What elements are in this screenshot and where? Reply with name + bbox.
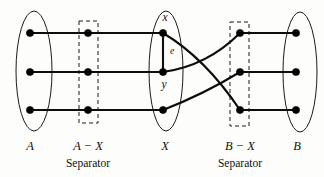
node-A-X-3: [84, 106, 91, 113]
node-B-1: [292, 29, 299, 36]
node-B-X-3: [236, 106, 243, 113]
group-label-A-X: A − X: [73, 140, 103, 153]
group-label-X: X: [161, 140, 169, 153]
node-A-1: [26, 29, 33, 36]
node-A-3: [26, 106, 33, 113]
node-A-2: [26, 68, 33, 75]
node-label-y: y: [161, 79, 166, 91]
node-B-3: [292, 106, 299, 113]
node-A-X-2: [84, 68, 91, 75]
separator-sublabel-B-X: Separator: [218, 158, 262, 170]
separator-sublabel-A-X: Separator: [66, 158, 110, 170]
group-label-A: A: [26, 140, 34, 153]
node-B-X-2: [236, 68, 243, 75]
node-X-3: [159, 106, 166, 113]
node-X-2: [159, 68, 166, 75]
group-label-B: B: [293, 140, 301, 153]
node-X-1: [159, 29, 166, 36]
node-A-X-1: [84, 29, 91, 36]
edge-y-BX1: [163, 33, 240, 72]
group-label-B-X: B − X: [225, 140, 255, 153]
node-B-2: [292, 68, 299, 75]
node-B-X-1: [236, 29, 243, 36]
edge-X3-BX2: [163, 72, 240, 110]
graph-separator-figure: AA − XSeparatorXB − XSeparatorBxye: [0, 0, 324, 177]
edge-label-e: e: [170, 47, 174, 57]
node-label-x: x: [162, 12, 167, 24]
